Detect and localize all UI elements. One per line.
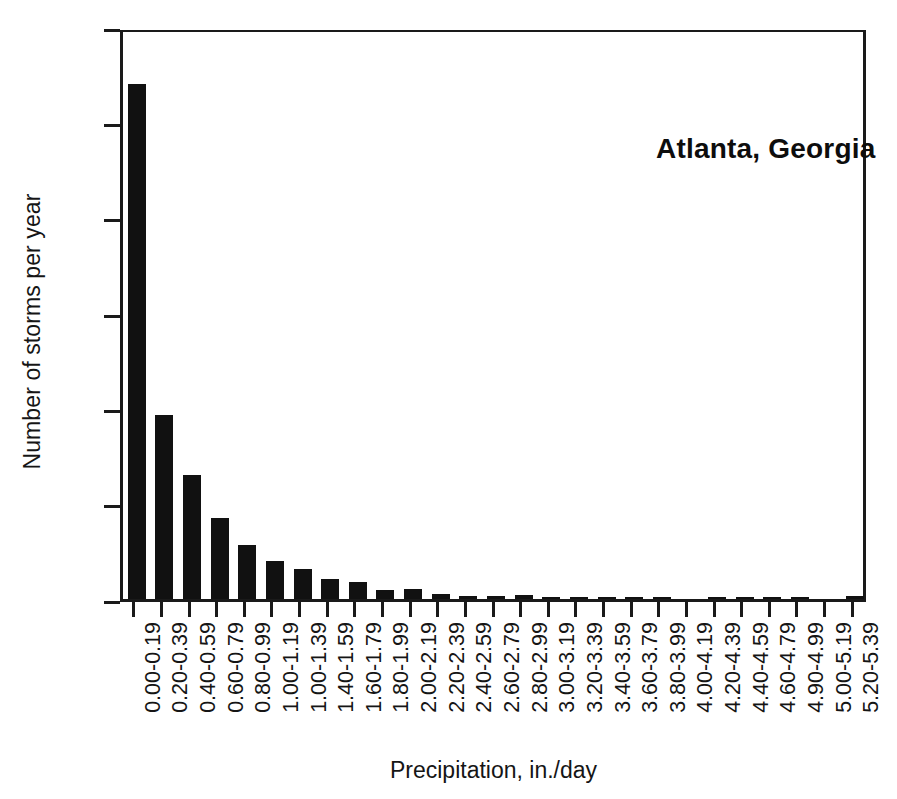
- y-axis-tick: [104, 29, 120, 32]
- x-axis-tick-label: 4.60-4.79: [778, 622, 800, 762]
- bar: [238, 545, 256, 599]
- bar: [846, 596, 864, 599]
- x-axis-tick: [270, 602, 273, 617]
- y-axis-tick: [104, 315, 120, 318]
- x-axis-tick: [657, 602, 660, 617]
- x-axis-tick: [768, 602, 771, 617]
- x-axis-tick-label: 4.00-4.19: [695, 622, 717, 762]
- x-axis-tick-label: 1.60-1.79: [364, 622, 386, 762]
- bar: [266, 561, 284, 599]
- x-axis-tick-label: 3.80-3.99: [668, 622, 690, 762]
- x-axis-tick-label: 1.00-1.19: [281, 622, 303, 762]
- x-axis-tick: [602, 602, 605, 617]
- bar: [294, 569, 312, 600]
- bar: [763, 597, 781, 599]
- x-axis-tick: [851, 602, 854, 617]
- bar: [459, 596, 477, 599]
- x-axis-tick-label: 4.90-4.99: [806, 622, 828, 762]
- y-axis-title: Number of storms per year: [19, 122, 46, 542]
- x-axis-tick: [243, 602, 246, 617]
- y-axis-tick: [104, 219, 120, 222]
- bar: [625, 597, 643, 599]
- bar: [404, 589, 422, 599]
- x-axis-tick-label: 2.40-2.59: [474, 622, 496, 762]
- x-axis-tick: [713, 602, 716, 617]
- x-axis-tick: [685, 602, 688, 617]
- x-axis-tick-label: 1.00-1.39: [309, 622, 331, 762]
- x-axis-title: Precipitation, in./day: [120, 757, 867, 784]
- x-axis-tick-label: 0.20-0.39: [170, 622, 192, 762]
- y-axis-tick: [104, 601, 120, 604]
- x-axis-tick-label: 0.60-0.79: [226, 622, 248, 762]
- x-axis-tick-label: 5.00-5.19: [834, 622, 856, 762]
- x-axis-tick: [795, 602, 798, 617]
- x-axis-tick: [381, 602, 384, 617]
- x-axis-tick: [160, 602, 163, 617]
- x-axis-tick-label: 0.40-0.59: [198, 622, 220, 762]
- bar: [791, 597, 809, 599]
- x-axis-tick-label: 0.00-0.19: [143, 622, 165, 762]
- x-axis-tick: [353, 602, 356, 617]
- precipitation-storm-histogram: Number of storms per year 0102030405060 …: [0, 0, 897, 799]
- x-axis-tick-label: 4.20-4.39: [723, 622, 745, 762]
- bar: [349, 582, 367, 599]
- x-axis-tick-label: 2.00-2.19: [419, 622, 441, 762]
- bar: [376, 590, 394, 599]
- bar: [211, 518, 229, 599]
- x-axis-tick: [188, 602, 191, 617]
- x-axis-tick-label: 1.80-1.99: [391, 622, 413, 762]
- x-axis-tick: [132, 602, 135, 617]
- bar: [653, 597, 671, 599]
- bar: [321, 579, 339, 599]
- bar: [183, 475, 201, 599]
- x-axis-tick-label: 5.20-5.39: [861, 622, 883, 762]
- x-axis-tick: [823, 602, 826, 617]
- bar: [487, 596, 505, 599]
- bar: [570, 597, 588, 599]
- x-axis-tick-label: 1.40-1.59: [336, 622, 358, 762]
- x-axis-tick-label: 3.20-3.39: [585, 622, 607, 762]
- y-axis-tick: [104, 505, 120, 508]
- bar: [432, 594, 450, 599]
- x-axis-tick: [215, 602, 218, 617]
- x-axis-tick-label: 3.40-3.59: [613, 622, 635, 762]
- plot-area: Atlanta, Georgia: [120, 30, 866, 602]
- chart-title: Atlanta, Georgia: [656, 133, 875, 165]
- x-axis-tick: [740, 602, 743, 617]
- x-axis-tick-label: 3.60-3.79: [640, 622, 662, 762]
- x-axis-tick: [298, 602, 301, 617]
- x-axis-tick: [464, 602, 467, 617]
- bar: [598, 597, 616, 599]
- bar: [128, 84, 146, 599]
- bar: [515, 595, 533, 599]
- x-axis-tick-label: 2.60-2.79: [502, 622, 524, 762]
- x-axis-tick-label: 2.80-2.99: [530, 622, 552, 762]
- x-axis-tick: [492, 602, 495, 617]
- bar: [155, 415, 173, 599]
- x-axis-tick: [436, 602, 439, 617]
- x-axis-tick: [409, 602, 412, 617]
- bar: [542, 597, 560, 599]
- x-axis-tick-label: 2.20-2.39: [447, 622, 469, 762]
- x-axis-tick: [547, 602, 550, 617]
- x-axis-tick: [519, 602, 522, 617]
- x-axis-tick-label: 3.00-3.19: [557, 622, 579, 762]
- bar-series: [123, 32, 863, 599]
- y-axis-tick: [104, 124, 120, 127]
- x-axis-tick-label: 4.40-4.59: [751, 622, 773, 762]
- x-axis-tick: [326, 602, 329, 617]
- x-axis-tick-label: 0.80-0.99: [253, 622, 275, 762]
- bar: [708, 597, 726, 599]
- x-axis-tick: [574, 602, 577, 617]
- x-axis-tick: [630, 602, 633, 617]
- y-axis-tick: [104, 410, 120, 413]
- bar: [736, 597, 754, 599]
